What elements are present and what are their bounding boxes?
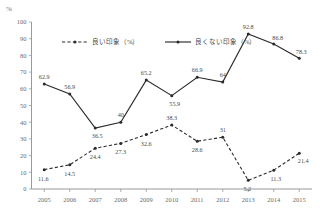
x-axis-tick-label: 2012 xyxy=(216,196,229,203)
series-1-data-label: 11.6 xyxy=(38,175,49,182)
series-1-data-point xyxy=(196,140,199,143)
series-2-data-point xyxy=(94,127,97,130)
series-1-data-point xyxy=(170,124,173,127)
legend-label-1: 良い印象（%） xyxy=(92,37,140,46)
series-2-data-point xyxy=(43,82,46,85)
series-1-data-point xyxy=(298,152,301,155)
legend-swatch-marker-2 xyxy=(177,41,180,44)
series-1-data-label: 11.3 xyxy=(270,175,281,182)
y-axis-tick-label: 20 xyxy=(20,152,27,159)
x-axis-tick-label: 2013 xyxy=(242,196,255,203)
line-chart-panel: % 0102030405060708090100 200520062007200… xyxy=(0,0,322,213)
series-1-data-label: 27.3 xyxy=(115,148,126,155)
legend-label-2: 良くない印象（%） xyxy=(195,37,257,46)
y-axis-tick-label: 10 xyxy=(20,169,27,176)
series-2-data-point xyxy=(170,94,173,97)
series-1-data-point xyxy=(272,169,275,172)
series-2-data-point xyxy=(68,92,71,95)
x-axis-tick-label: 2011 xyxy=(191,196,204,203)
series-2-data-point xyxy=(298,57,301,60)
y-axis-tick-label: 30 xyxy=(20,135,27,142)
chart-canvas: % 0102030405060708090100 200520062007200… xyxy=(0,0,322,213)
series-2-data-point xyxy=(221,81,224,84)
series-1-data-label: 14.5 xyxy=(64,170,75,177)
y-axis-tick-label: 90 xyxy=(20,35,27,42)
series-2-data-point xyxy=(196,76,199,79)
series-2-data-label: 64 xyxy=(220,71,226,78)
series-2-data-point xyxy=(247,33,250,36)
y-axis-tick-label: 40 xyxy=(20,119,27,126)
series-1-data-label: 38.3 xyxy=(166,114,177,121)
y-axis-unit-label: % xyxy=(6,5,12,13)
series-2-data-label: 56.9 xyxy=(64,83,75,90)
series-2-data-label: 62.9 xyxy=(39,73,50,80)
series-2-data-point xyxy=(272,43,275,46)
data-label-group: 11.614.524.427.332.638.328.6315.211.321.… xyxy=(38,23,309,192)
x-axis-tick-label: 2015 xyxy=(293,196,306,203)
series-1-data-label: 28.6 xyxy=(192,146,203,153)
y-axis-tick-label: 50 xyxy=(20,102,27,109)
legend-swatch-marker-1 xyxy=(74,41,77,44)
x-axis-tick-label: 2005 xyxy=(38,196,51,203)
series-1-data-point xyxy=(247,179,250,182)
series-2-data-label: 92.8 xyxy=(243,23,254,30)
x-axis-tick-label: 2014 xyxy=(267,196,281,203)
series-2-data-point xyxy=(145,79,148,82)
y-axis-tick-group: 0102030405060708090100 xyxy=(17,18,32,192)
y-axis-tick-label: 60 xyxy=(20,85,27,92)
series-line-1 xyxy=(44,125,299,180)
y-axis-tick-label: 70 xyxy=(20,68,27,75)
series-2-data-label: 40 xyxy=(118,111,124,118)
series-2-data-label: 78.3 xyxy=(296,48,307,55)
x-axis-tick-label: 2009 xyxy=(140,196,153,203)
x-axis-tick-group: 2005200620072008200920102011201220132014… xyxy=(38,189,306,203)
x-axis-tick-label: 2007 xyxy=(89,196,103,203)
data-series-group xyxy=(43,33,301,182)
series-1-data-label: 32.6 xyxy=(141,140,152,147)
y-axis-tick-label: 0 xyxy=(23,185,26,192)
series-1-data-point xyxy=(43,168,46,171)
legend: 良い印象（%）良くない印象（%） xyxy=(62,37,257,46)
series-1-data-point xyxy=(221,136,224,139)
series-1-data-label: 21.4 xyxy=(298,157,309,164)
y-axis-tick-label: 80 xyxy=(20,52,27,59)
series-2-data-label: 66.9 xyxy=(192,66,203,73)
series-1-data-label: 5.2 xyxy=(243,185,251,192)
series-2-data-point xyxy=(119,121,122,124)
series-1-data-label: 31 xyxy=(220,126,226,133)
series-1-data-point xyxy=(94,147,97,150)
y-axis-tick-label: 100 xyxy=(17,18,27,25)
x-axis-tick-label: 2008 xyxy=(114,196,127,203)
x-axis-tick-label: 2006 xyxy=(63,196,77,203)
series-1-data-point xyxy=(119,142,122,145)
series-2-data-label: 55.9 xyxy=(169,100,180,107)
x-axis-tick-label: 2010 xyxy=(165,196,178,203)
series-1-data-label: 24.4 xyxy=(90,153,101,160)
series-2-data-label: 36.5 xyxy=(92,132,103,139)
series-1-data-point xyxy=(145,133,148,136)
series-2-data-label: 86.8 xyxy=(272,34,283,41)
series-2-data-label: 65.2 xyxy=(141,69,152,76)
y-axis-unit-group: % xyxy=(6,5,12,13)
series-1-data-point xyxy=(68,163,71,166)
